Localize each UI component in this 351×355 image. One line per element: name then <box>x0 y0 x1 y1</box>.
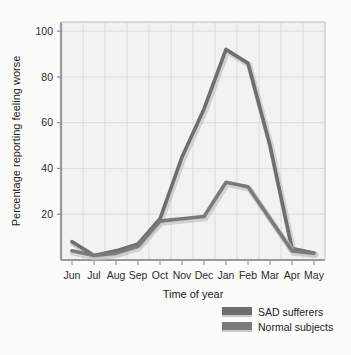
x-tick-label: Oct <box>152 269 168 281</box>
y-tick-label: 40 <box>41 162 53 174</box>
x-tick-labels: JunJulAugSepOctNovDecJanFebMarAprMay <box>64 269 325 281</box>
legend-swatch <box>222 322 252 330</box>
chart-svg: 20406080100 JunJulAugSepOctNovDecJanFebM… <box>0 0 351 355</box>
y-tick-label: 80 <box>41 71 53 83</box>
x-tick-label: Sep <box>129 269 148 281</box>
x-tick-label: Jun <box>64 269 81 281</box>
x-tick-label: May <box>304 269 325 281</box>
y-axis-title: Percentage reporting feeling worse <box>10 56 22 227</box>
x-tick-label: Dec <box>195 269 214 281</box>
y-tick-label: 100 <box>35 25 53 37</box>
chart-figure: 20406080100 JunJulAugSepOctNovDecJanFebM… <box>0 0 351 355</box>
x-tick-label: Aug <box>107 269 126 281</box>
y-tick-labels: 20406080100 <box>35 25 53 220</box>
legend-label: Normal subjects <box>258 321 333 333</box>
chart-legend: SAD sufferersNormal subjects <box>222 306 333 333</box>
x-tick-label: Apr <box>284 269 301 281</box>
y-tick-label: 20 <box>41 208 53 220</box>
x-tick-label: Feb <box>239 269 257 281</box>
x-tick-label: Nov <box>173 269 192 281</box>
x-tick-label: Mar <box>261 269 280 281</box>
x-tick-label: Jul <box>87 269 100 281</box>
x-axis-title: Time of year <box>163 288 224 300</box>
legend-swatch <box>222 307 252 315</box>
legend-label: SAD sufferers <box>258 306 323 318</box>
x-tick-label: Jan <box>218 269 235 281</box>
y-tick-label: 60 <box>41 116 53 128</box>
